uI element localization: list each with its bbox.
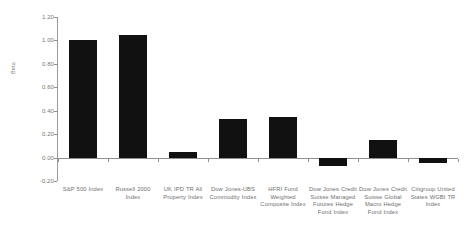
x-axis-category-label: Russell 2000 Index [109,186,157,201]
y-axis-tick-mark [54,17,57,18]
bar [419,158,447,164]
x-axis-tick-mark [458,159,459,162]
x-axis-tick-mark [158,159,159,162]
y-axis-tick-mark [54,64,57,65]
y-axis-tick-label: 0.40 [42,108,54,114]
y-axis-tick-label: 0.80 [42,61,54,67]
y-axis-tick-label: 0.00 [42,155,54,161]
bar [319,158,347,166]
y-axis-tick-labels: 1.201.000.800.600.400.200.00-0.20 [28,0,54,242]
y-axis-tick-mark [54,181,57,182]
y-axis-title: Beta [10,48,16,88]
plot-area [58,17,458,181]
y-axis-tick-label: -0.20 [40,178,54,184]
x-axis-tick-mark [258,159,259,162]
y-axis-tick-label: 1.00 [42,37,54,43]
x-axis-tick-mark [358,159,359,162]
beta-bar-chart: Beta 1.201.000.800.600.400.200.00-0.20 S… [0,0,464,242]
x-axis-category-label: Dow Jones-UBS Commodity Index [209,186,257,201]
y-axis-tick-mark [54,87,57,88]
x-axis-category-label: Dow Jones Credit Suisse Managed Futures … [309,186,357,216]
y-axis-tick-mark [54,111,57,112]
x-axis-category-label: UK IPD TR All Property Index [159,186,207,201]
x-axis-category-label: S&P 500 Index [59,186,107,194]
x-axis-tick-mark [308,159,309,162]
x-axis-category-label: Citigroup United States WGBI TR Index [409,186,457,209]
x-axis-category-label: HFRI Fund Weighted Composite Index [259,186,307,209]
bar [369,140,397,158]
y-axis-tick-mark [54,134,57,135]
x-axis-tick-mark [108,159,109,162]
x-axis-category-labels: S&P 500 IndexRussell 2000 IndexUK IPD TR… [58,186,458,242]
y-axis-tick-label: 0.60 [42,84,54,90]
y-axis-tick-label: 1.20 [42,14,54,20]
x-axis-category-label: Dow Jones Credit Suisse Global Macro Hed… [359,186,407,216]
bar [119,35,147,158]
x-axis-tick-mark [208,159,209,162]
bar [269,117,297,158]
y-axis-tick-mark [54,40,57,41]
bar [169,152,197,158]
y-axis-tick-mark [54,158,57,159]
y-axis-tick-label: 0.20 [42,131,54,137]
x-axis-tick-mark [58,159,59,162]
x-axis-tick-mark [408,159,409,162]
bar [219,119,247,158]
bar [69,40,97,157]
